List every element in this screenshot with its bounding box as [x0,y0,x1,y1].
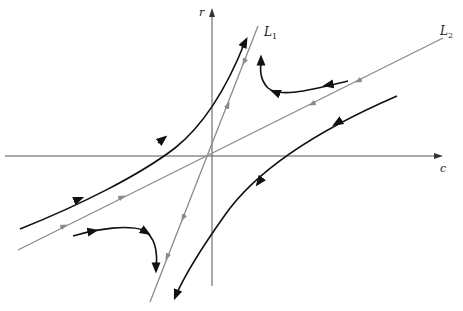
r-axis-label: r [199,6,205,19]
eigenline-l2: L2 [18,24,453,250]
trajectory-upper-right [261,60,348,93]
r-axis-arrow-icon [209,8,215,17]
trajectory-lower-left [73,228,157,268]
trajectory-lower-right [176,96,397,295]
l1-label: L1 [263,25,277,41]
phase-plane-diagram: c r L1 L2 [0,0,463,311]
c-axis-label: c [440,162,446,175]
eigenline-l1: L1 [150,25,277,302]
trajectories [20,42,397,295]
c-axis-arrow-icon [434,153,443,159]
trajectory-upper-left [20,42,245,229]
l2-label: L2 [439,24,453,40]
